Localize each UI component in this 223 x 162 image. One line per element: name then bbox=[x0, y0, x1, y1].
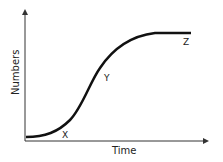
point-label-z: Z bbox=[183, 37, 189, 47]
y-axis-label: Numbers bbox=[10, 50, 21, 95]
point-label-y: Y bbox=[103, 73, 110, 83]
point-label-x: X bbox=[62, 130, 68, 140]
s-curve-chart: Time Numbers X Y Z bbox=[0, 0, 223, 162]
x-axis-label: Time bbox=[111, 145, 136, 156]
growth-curve bbox=[26, 33, 191, 137]
